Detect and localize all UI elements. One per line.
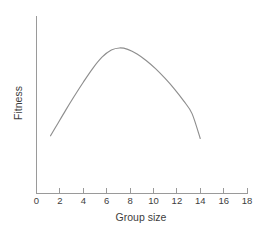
fitness-curve bbox=[51, 48, 201, 139]
x-tick-label: 2 bbox=[57, 195, 62, 206]
x-tick-label: 12 bbox=[172, 195, 183, 206]
x-tick-label: 14 bbox=[195, 195, 206, 206]
x-axis-title: Group size bbox=[116, 211, 167, 223]
x-tick-label: 10 bbox=[148, 195, 159, 206]
x-axis-ticks bbox=[37, 188, 248, 194]
x-tick-label: 8 bbox=[127, 195, 132, 206]
x-tick-label: 4 bbox=[81, 195, 86, 206]
fitness-vs-group-size-chart: 0 2 4 6 8 10 12 14 16 18 Group size Fitn… bbox=[0, 0, 275, 235]
x-tick-label: 0 bbox=[34, 195, 39, 206]
x-tick-label: 16 bbox=[218, 195, 229, 206]
x-tick-label: 6 bbox=[104, 195, 109, 206]
x-axis-tick-labels: 0 2 4 6 8 10 12 14 16 18 bbox=[34, 195, 252, 206]
y-axis-title: Fitness bbox=[12, 86, 24, 120]
x-tick-label: 18 bbox=[242, 195, 253, 206]
chart-figure: 0 2 4 6 8 10 12 14 16 18 Group size Fitn… bbox=[0, 0, 275, 235]
